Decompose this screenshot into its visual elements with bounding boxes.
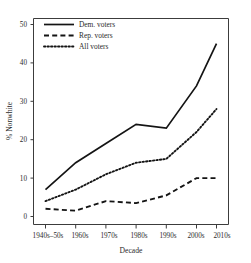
series-group <box>46 44 217 211</box>
x-axis-title: Decade <box>120 246 143 255</box>
series-line-dem-voters <box>46 44 217 190</box>
x-tick-label-1980s: 1980s <box>130 232 147 240</box>
y-tick-label-50: 50 <box>20 21 28 29</box>
x-tick-label-1940s-50s: 1940s–50s <box>33 232 64 240</box>
series-line-rep-voters <box>46 178 217 211</box>
y-axis-ticks: 0 10 20 30 40 50 <box>20 21 34 221</box>
x-tick-label-1960s: 1960s <box>71 232 88 240</box>
legend-label-all-voters: All voters <box>79 42 108 51</box>
y-tick-label-20: 20 <box>20 136 28 144</box>
x-tick-label-1970s: 1970s <box>100 232 117 240</box>
y-tick-label-10: 10 <box>20 175 28 183</box>
y-tick-label-30: 30 <box>20 98 28 106</box>
legend-label-dem-voters: Dem. voters <box>79 20 115 29</box>
x-tick-label-2000s: 2000s <box>187 232 204 240</box>
nonwhite-voters-line-chart: 0 10 20 30 40 50 1940s–50s 1960s 1970s 1… <box>0 0 251 263</box>
legend-label-rep-voters: Rep. voters <box>79 31 113 40</box>
x-tick-label-1990s: 1990s <box>159 232 176 240</box>
y-axis-title: % Nonwhite <box>5 101 14 140</box>
y-tick-label-40: 40 <box>20 59 28 67</box>
series-line-all-voters <box>46 109 217 201</box>
y-tick-label-0: 0 <box>23 213 27 221</box>
x-axis-ticks: 1940s–50s 1960s 1970s 1980s 1990s 2000s … <box>33 225 231 241</box>
x-tick-label-2010s: 2010s <box>213 232 230 240</box>
chart-legend: Dem. voters Rep. voters All voters <box>44 20 115 51</box>
chart-figure: 0 10 20 30 40 50 1940s–50s 1960s 1970s 1… <box>0 0 251 263</box>
